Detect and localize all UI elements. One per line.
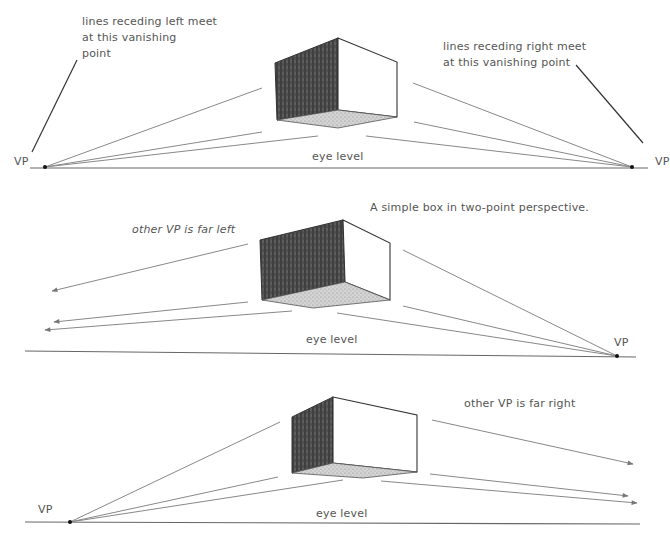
annotation-right-line-2: at this vanishing point (443, 55, 570, 71)
vanishing-point-left (43, 165, 47, 169)
vp-right-label: VP (655, 154, 670, 170)
vp-left-label: VP (14, 154, 29, 170)
box-drawing (260, 220, 390, 308)
vp-left-label: VP (38, 502, 53, 518)
vanishing-point-right (630, 165, 634, 169)
figure-caption: A simple box in two-point perspective. (370, 200, 589, 216)
panel-far-right (25, 397, 640, 524)
eye-level-line (25, 351, 636, 357)
vanishing-point-right (615, 354, 619, 358)
box-drawing (275, 38, 397, 128)
eye-level-label: eye level (316, 506, 368, 522)
box-drawing (292, 397, 417, 478)
eye-level-line (25, 522, 640, 524)
vanishing-point-left (68, 520, 72, 524)
annotation-left-line-2: at this vanishing (82, 30, 177, 46)
annotation-left-line-1: lines receding left meet (82, 14, 217, 30)
eye-level-label: eye level (306, 332, 358, 348)
annotation-right-line-1: lines receding right meet (443, 39, 586, 55)
annotation-left-line-3: point (82, 46, 111, 62)
eye-level-label: eye level (312, 149, 364, 165)
pointer-right (576, 65, 643, 143)
note-far-right: other VP is far right (464, 396, 575, 412)
vp-right-label: VP (614, 335, 629, 351)
note-far-left: other VP is far left (132, 222, 235, 238)
pointer-left (32, 60, 77, 152)
